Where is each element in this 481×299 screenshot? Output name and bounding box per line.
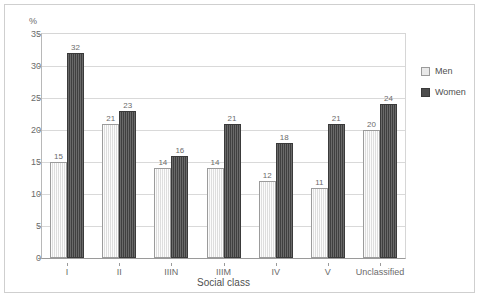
x-axis-tick-mark xyxy=(119,263,120,266)
bar-men-iiim[interactable]: 14 xyxy=(207,168,224,258)
chart-legend: Men Women xyxy=(421,67,477,109)
bar-value-label: 21 xyxy=(228,115,237,123)
bar-men-v[interactable]: 11 xyxy=(311,188,328,258)
bar-men-i[interactable]: 15 xyxy=(50,162,67,258)
bar-value-label: 15 xyxy=(54,153,63,161)
bar-women-unclassified[interactable]: 24 xyxy=(380,104,397,258)
legend-label-men: Men xyxy=(435,67,453,76)
bar-group: 1121 xyxy=(311,33,345,258)
bar-group: 1416 xyxy=(154,33,188,258)
legend-item-men[interactable]: Men xyxy=(421,67,477,76)
legend-swatch-men-icon xyxy=(421,67,430,76)
bar-men-unclassified[interactable]: 20 xyxy=(363,130,380,258)
bars-layer: 1532212314161421121811212024 xyxy=(41,33,406,259)
bar-women-iv[interactable]: 18 xyxy=(276,143,293,258)
x-axis-tick-mark xyxy=(380,263,381,266)
bar-value-label: 18 xyxy=(280,134,289,142)
chart-figure: % 05101520253035 15322123141614211218112… xyxy=(4,4,475,293)
y-axis: 05101520253035 xyxy=(5,33,41,259)
bar-men-iiin[interactable]: 14 xyxy=(154,168,171,258)
x-axis-tick-label: Unclassified xyxy=(356,268,405,277)
x-axis-title: Social class xyxy=(41,278,406,288)
legend-swatch-women-icon xyxy=(421,88,430,97)
bar-group: 1421 xyxy=(207,33,241,258)
bar-value-label: 21 xyxy=(332,115,341,123)
bar-value-label: 16 xyxy=(175,147,184,155)
x-axis-tick-label: I xyxy=(66,268,69,277)
bar-value-label: 32 xyxy=(71,44,80,52)
x-axis-tick-mark xyxy=(276,263,277,266)
x-axis-tick-mark xyxy=(328,263,329,266)
bar-value-label: 14 xyxy=(158,159,167,167)
bar-value-label: 23 xyxy=(123,102,132,110)
bar-women-iiim[interactable]: 21 xyxy=(224,124,241,258)
x-axis-tick-mark xyxy=(67,263,68,266)
bar-group: 1218 xyxy=(259,33,293,258)
bar-group: 1532 xyxy=(50,33,84,258)
x-axis-tick-label: IIIM xyxy=(216,268,231,277)
x-axis-tick-label: IV xyxy=(271,268,280,277)
bar-group: 2024 xyxy=(363,33,397,258)
legend-item-women[interactable]: Women xyxy=(421,88,477,97)
bar-value-label: 11 xyxy=(315,179,323,187)
bar-women-iiin[interactable]: 16 xyxy=(171,156,188,258)
bar-value-label: 12 xyxy=(263,172,272,180)
bar-value-label: 21 xyxy=(106,115,115,123)
x-axis-tick-label: II xyxy=(117,268,122,277)
x-axis-tick-mark xyxy=(171,263,172,266)
bar-women-ii[interactable]: 23 xyxy=(119,111,136,258)
bar-value-label: 14 xyxy=(211,159,220,167)
x-axis-tick-label: V xyxy=(325,268,331,277)
bar-value-label: 20 xyxy=(367,121,376,129)
y-axis-title: % xyxy=(29,17,37,26)
x-axis-tick-labels: IIIIIINIIIMIVVUnclassified xyxy=(41,263,406,277)
bar-value-label: 24 xyxy=(384,95,393,103)
bar-group: 2123 xyxy=(102,33,136,258)
bar-women-v[interactable]: 21 xyxy=(328,124,345,258)
x-axis-tick-label: IIIN xyxy=(164,268,178,277)
x-axis-tick-mark xyxy=(224,263,225,266)
bar-men-ii[interactable]: 21 xyxy=(102,124,119,258)
legend-label-women: Women xyxy=(435,88,466,97)
bar-men-iv[interactable]: 12 xyxy=(259,181,276,258)
bar-women-i[interactable]: 32 xyxy=(67,53,84,258)
